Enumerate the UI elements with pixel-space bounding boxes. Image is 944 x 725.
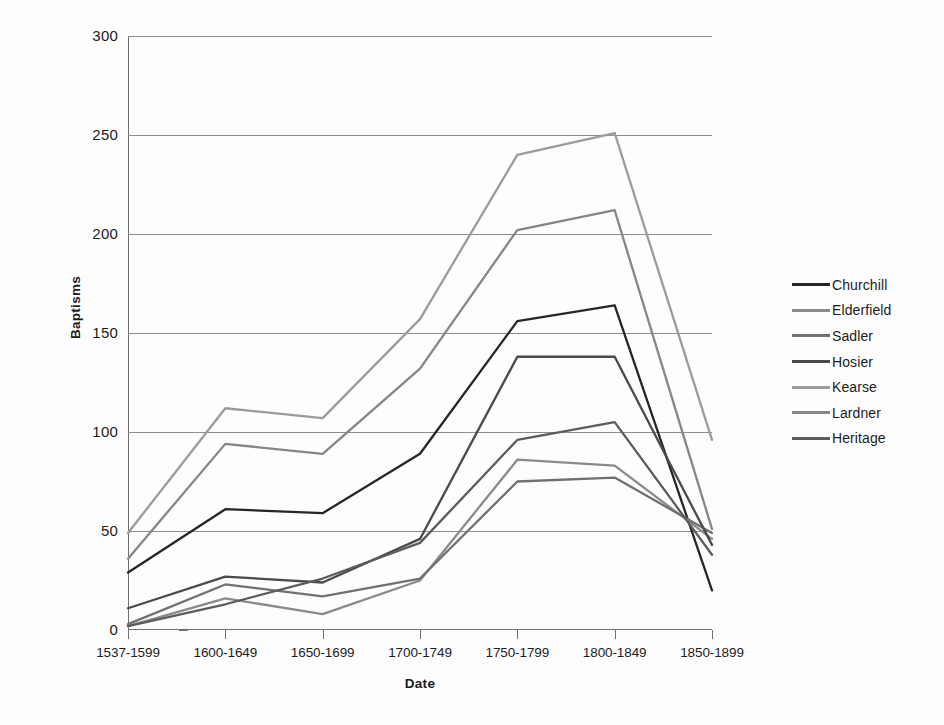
chart-legend: ChurchillElderfieldSadlerHosierKearseLar…: [792, 272, 942, 451]
legend-item[interactable]: Heritage: [792, 426, 942, 452]
x-tick-mark: [712, 630, 713, 639]
chart-figure: Baptisms 050100150200250300 1537-1599160…: [0, 0, 944, 725]
legend-label: Kearse: [830, 379, 877, 395]
x-tick-label: 1537-1599: [73, 645, 183, 660]
legend-item[interactable]: Lardner: [792, 400, 942, 426]
legend-label: Sadler: [830, 328, 873, 344]
legend-item[interactable]: Sadler: [792, 323, 942, 349]
y-axis-ticks: 050100150200250300: [60, 36, 118, 630]
x-tick-label: 1750-1799: [462, 645, 572, 660]
x-tick-mark: [128, 630, 129, 639]
y-tick-label: 0: [72, 622, 118, 637]
legend-label: Lardner: [830, 405, 881, 421]
y-tick-label: 100: [72, 424, 118, 439]
series-line: [128, 305, 712, 590]
legend-item[interactable]: Churchill: [792, 272, 942, 298]
legend-label: Churchill: [830, 277, 887, 293]
legend-swatch-icon: [792, 386, 830, 389]
x-tick-label: 1700-1749: [365, 645, 475, 660]
legend-swatch-icon: [792, 334, 830, 337]
series-line: [128, 210, 712, 558]
x-tick-label: 1650-1699: [268, 645, 378, 660]
x-tick-mark: [420, 630, 421, 639]
series-lines: [128, 36, 712, 630]
legend-label: Hosier: [830, 354, 873, 370]
x-tick-label: 1600-1649: [170, 645, 280, 660]
y-tick-label: 150: [72, 325, 118, 340]
x-tick-mark: [225, 630, 226, 639]
legend-swatch-icon: [792, 437, 830, 440]
legend-swatch-icon: [792, 283, 830, 286]
x-axis-title: Date: [128, 676, 712, 691]
legend-swatch-icon: [792, 309, 830, 312]
x-tick-mark: [615, 630, 616, 639]
y-tick-mark: [179, 630, 188, 631]
legend-item[interactable]: Hosier: [792, 349, 942, 375]
legend-swatch-icon: [792, 360, 830, 363]
y-tick-label: 300: [72, 28, 118, 43]
legend-label: Elderfield: [830, 302, 891, 318]
legend-swatch-icon: [792, 411, 830, 414]
x-tick-label: 1850-1899: [657, 645, 767, 660]
plot-area: [128, 36, 712, 630]
legend-item[interactable]: Kearse: [792, 374, 942, 400]
y-tick-label: 50: [72, 523, 118, 538]
x-tick-mark: [517, 630, 518, 639]
y-tick-label: 200: [72, 226, 118, 241]
x-tick-label: 1800-1849: [560, 645, 670, 660]
legend-label: Heritage: [830, 430, 886, 446]
y-tick-label: 250: [72, 127, 118, 142]
legend-item[interactable]: Elderfield: [792, 298, 942, 324]
x-tick-mark: [323, 630, 324, 639]
